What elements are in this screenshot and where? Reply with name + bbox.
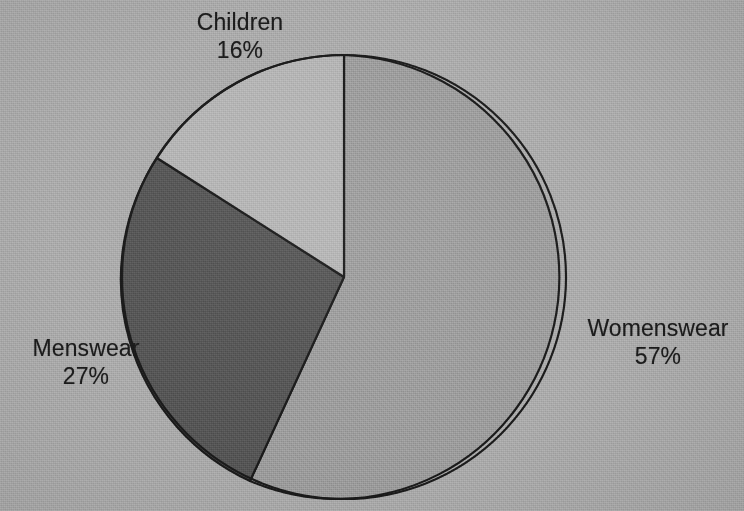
pie-label-children-name: Children xyxy=(197,9,283,35)
pie-label-menswear-name: Menswear xyxy=(33,335,140,361)
pie-chart-graphic xyxy=(0,0,744,511)
pie-label-womenswear-name: Womenswear xyxy=(587,315,728,341)
pie-label-womenswear: Womenswear 57% xyxy=(572,314,744,370)
pie-label-menswear: Menswear 27% xyxy=(2,334,170,390)
pie-label-children: Children 16% xyxy=(152,8,328,64)
pie-label-menswear-value: 27% xyxy=(2,362,170,390)
pie-label-womenswear-value: 57% xyxy=(572,342,744,370)
pie-label-children-value: 16% xyxy=(152,36,328,64)
pie-chart-figure: Children 16% Menswear 27% Womenswear 57% xyxy=(0,0,744,511)
